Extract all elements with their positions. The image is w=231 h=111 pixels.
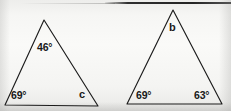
- angle-label-b: b: [169, 22, 176, 33]
- angle-label-69-left: 69°: [11, 90, 26, 101]
- diagram-canvas: 46° 69° c b 69° 63°: [0, 0, 231, 111]
- angle-label-63: 63°: [194, 90, 209, 101]
- angle-label-46: 46°: [37, 42, 52, 53]
- angle-label-c: c: [79, 89, 85, 100]
- angle-label-69-right: 69°: [136, 90, 151, 101]
